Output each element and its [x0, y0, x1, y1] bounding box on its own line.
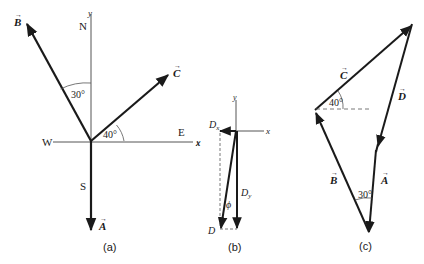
angle-C-label-a: 40°: [103, 129, 117, 140]
panel-b: y x x Dx D Dy ϕ (b): [195, 93, 270, 253]
panel-a: y N x W E S B → 30° C → 40° A → (a): [13, 8, 201, 253]
angle-AB-label-c: 30°: [358, 189, 372, 200]
angle-arc-C: [117, 125, 125, 141]
vector-diagram: y N x W E S B → 30° C → 40° A → (a) y x …: [0, 0, 424, 264]
y-axis-label-a: y: [87, 8, 92, 18]
caption-c: (c): [359, 240, 372, 252]
vector-Dx-label: Dx: [208, 119, 220, 132]
vector-B-c: [316, 113, 369, 232]
vector-D-b: [221, 131, 236, 228]
vector-Dy-label: Dy: [240, 187, 252, 200]
vector-B-arrow-mark-c: →: [331, 169, 338, 177]
vector-C-arrow-mark-c: →: [341, 64, 348, 72]
east-label: E: [178, 126, 185, 138]
caption-b: (b): [228, 241, 241, 253]
angle-B-label-a: 30°: [71, 89, 85, 100]
south-label: S: [80, 180, 86, 192]
vector-C-arrow-mark-a: →: [174, 62, 181, 70]
angle-C-label-c: 40°: [329, 97, 343, 108]
vector-D-c: [378, 24, 412, 146]
vector-A-arrow-mark-a: →: [100, 215, 107, 223]
x-axis-label-b-left: x: [195, 138, 200, 148]
vector-A-arrow-mark-c: →: [382, 169, 389, 177]
vector-D-label-b: D: [207, 225, 216, 236]
west-label: W: [42, 136, 53, 148]
vector-D-arrow-mark-c: →: [399, 85, 406, 93]
x-axis-label-b: x: [265, 126, 270, 136]
north-label: N: [79, 20, 87, 32]
y-axis-label-b: y: [232, 93, 237, 102]
vector-B-a: [27, 24, 91, 141]
phi-label: ϕ: [226, 199, 231, 210]
vector-B-arrow-mark-a: →: [15, 11, 22, 19]
panel-c: B → C → 40° D → A → 30° (c): [315, 24, 412, 252]
caption-a: (a): [103, 241, 116, 253]
